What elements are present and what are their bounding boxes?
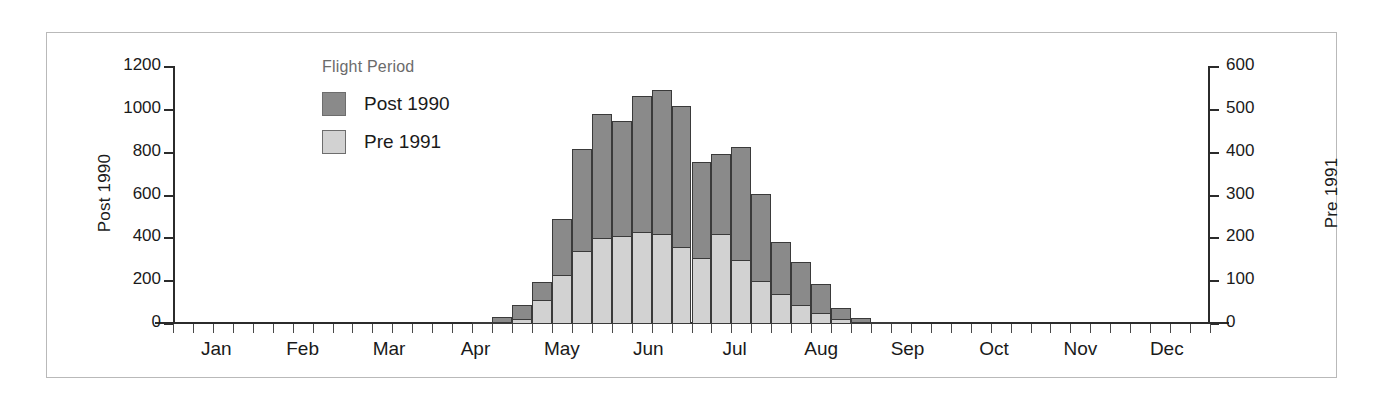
legend-swatch-post-1990 <box>322 92 346 116</box>
right-axis-title: Pre 1991 <box>1322 113 1342 273</box>
x-tick-3 <box>233 324 234 333</box>
x-tick-19 <box>552 324 553 333</box>
x-tick-38 <box>931 324 932 333</box>
x-tick-39 <box>951 324 952 333</box>
x-tick-35 <box>871 324 872 333</box>
x-month-label-feb: Feb <box>263 338 343 360</box>
x-tick-15 <box>472 324 473 333</box>
legend-title: Flight Period <box>322 58 450 76</box>
bar-segment-pre-1991 <box>791 305 811 324</box>
bar-w23 <box>612 121 632 324</box>
legend-item-pre-1991: Pre 1991 <box>322 130 450 154</box>
left-tick-label-1200: 1200 <box>91 55 161 75</box>
bar-w18 <box>512 305 532 324</box>
bar-segment-post-1990 <box>472 322 492 324</box>
x-tick-50 <box>1170 324 1171 333</box>
left-tick-label-200: 200 <box>91 269 161 289</box>
x-month-label-jan: Jan <box>176 338 256 360</box>
bar-segment-pre-1991 <box>731 260 751 324</box>
bar-w25 <box>652 90 672 325</box>
x-tick-20 <box>572 324 573 333</box>
x-tick-25 <box>672 324 673 333</box>
bar-segment-pre-1991 <box>831 319 851 324</box>
x-tick-49 <box>1150 324 1151 333</box>
x-tick-1 <box>193 324 194 333</box>
x-tick-26 <box>692 324 693 333</box>
bar-segment-pre-1991 <box>672 247 692 324</box>
x-tick-31 <box>791 324 792 333</box>
right-tick-label-0: 0 <box>1226 312 1296 332</box>
x-month-label-jul: Jul <box>695 338 775 360</box>
x-tick-46 <box>1090 324 1091 333</box>
x-tick-11 <box>392 324 393 333</box>
x-tick-28 <box>731 324 732 333</box>
bar-segment-pre-1991 <box>711 234 731 324</box>
x-tick-13 <box>432 324 433 333</box>
bar-segment-pre-1991 <box>751 281 771 324</box>
bar-segment-pre-1991 <box>692 258 712 324</box>
bar-segment-post-1990 <box>891 322 911 324</box>
bar-w33 <box>811 284 831 324</box>
left-tick-label-600: 600 <box>91 184 161 204</box>
bar-w32 <box>791 262 811 324</box>
bar-segment-pre-1991 <box>512 319 532 324</box>
x-tick-34 <box>851 324 852 333</box>
x-tick-29 <box>751 324 752 333</box>
x-month-label-apr: Apr <box>435 338 515 360</box>
left-tick-0 <box>164 323 173 325</box>
bar-w16 <box>472 323 492 324</box>
bar-segment-pre-1991 <box>572 251 592 324</box>
x-month-label-mar: Mar <box>349 338 429 360</box>
bar-w31 <box>771 242 791 324</box>
x-tick-45 <box>1070 324 1071 333</box>
x-tick-14 <box>452 324 453 333</box>
x-month-label-may: May <box>522 338 602 360</box>
left-tick-200 <box>164 280 173 282</box>
bar-segment-pre-1991 <box>652 234 672 324</box>
x-month-label-jun: Jun <box>608 338 688 360</box>
x-tick-42 <box>1011 324 1012 333</box>
bar-segment-pre-1991 <box>492 322 512 324</box>
x-tick-24 <box>652 324 653 333</box>
bar-w28 <box>711 154 731 324</box>
right-tick-label-300: 300 <box>1226 184 1296 204</box>
right-tick-label-500: 500 <box>1226 98 1296 118</box>
bar-w22 <box>592 114 612 324</box>
right-tick-200 <box>1210 237 1219 239</box>
bar-w37 <box>891 323 911 324</box>
x-month-label-dec: Dec <box>1127 338 1207 360</box>
bar-w35 <box>851 318 871 324</box>
bar-segment-pre-1991 <box>632 232 652 324</box>
x-tick-44 <box>1050 324 1051 333</box>
bar-w30 <box>751 194 771 324</box>
right-tick-label-100: 100 <box>1226 269 1296 289</box>
x-tick-30 <box>771 324 772 333</box>
x-tick-52 <box>1210 324 1211 333</box>
right-tick-0 <box>1210 323 1219 325</box>
bar-segment-pre-1991 <box>811 313 831 324</box>
x-tick-47 <box>1110 324 1111 333</box>
left-tick-label-400: 400 <box>91 226 161 246</box>
x-tick-40 <box>971 324 972 333</box>
bar-w17 <box>492 317 512 324</box>
x-tick-16 <box>492 324 493 333</box>
x-month-label-sep: Sep <box>868 338 948 360</box>
x-tick-43 <box>1031 324 1032 333</box>
x-month-label-nov: Nov <box>1040 338 1120 360</box>
bar-segment-pre-1991 <box>552 275 572 324</box>
right-tick-100 <box>1210 280 1219 282</box>
bar-segment-pre-1991 <box>851 322 871 324</box>
x-tick-51 <box>1190 324 1191 333</box>
x-tick-33 <box>831 324 832 333</box>
bar-segment-pre-1991 <box>592 238 612 324</box>
bar-segment-pre-1991 <box>532 300 552 324</box>
bar-w36 <box>871 322 891 324</box>
legend: Flight Period Post 1990 Pre 1991 <box>322 58 450 168</box>
bar-w19 <box>532 282 552 324</box>
x-tick-22 <box>612 324 613 333</box>
left-tick-1200 <box>164 66 173 68</box>
x-tick-10 <box>372 324 373 333</box>
left-tick-label-1000: 1000 <box>91 98 161 118</box>
x-tick-32 <box>811 324 812 333</box>
x-tick-36 <box>891 324 892 333</box>
